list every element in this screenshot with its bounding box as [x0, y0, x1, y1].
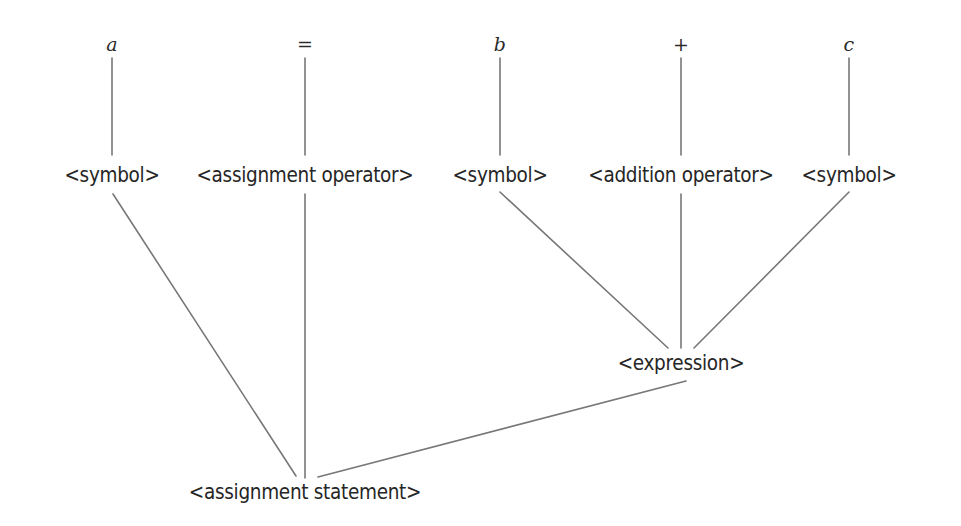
nonterminal-symbol-a: <symbol>: [64, 165, 159, 186]
terminal-a: a: [106, 35, 118, 54]
nonterminal-assignment-statement: <assignment statement>: [189, 482, 421, 503]
terminal-c: c: [844, 35, 855, 54]
nonterminal-assignment-operator: <assignment operator>: [196, 165, 413, 186]
terminal-plus: +: [673, 35, 689, 54]
terminal-b: b: [494, 35, 506, 54]
nonterminal-symbol-c: <symbol>: [801, 165, 896, 186]
tree-edge: [694, 192, 849, 348]
nonterminal-expression: <expression>: [618, 353, 745, 374]
terminal-equals: =: [297, 35, 313, 54]
tree-edge: [500, 192, 668, 348]
tree-edge: [318, 381, 686, 477]
tree-edge: [113, 194, 296, 476]
tree-edges: [0, 0, 961, 526]
parse-tree-diagram: a = b + c <symbol> <assignment operator>…: [0, 0, 961, 526]
nonterminal-symbol-b: <symbol>: [452, 165, 547, 186]
nonterminal-addition-operator: <addition operator>: [588, 165, 774, 186]
